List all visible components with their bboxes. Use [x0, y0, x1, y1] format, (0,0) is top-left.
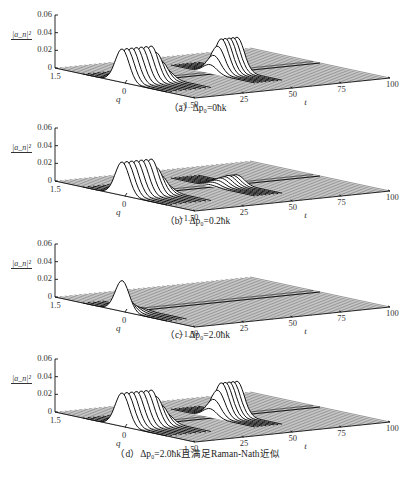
t-tick-label: 50 [289, 203, 298, 212]
t-tick-label: 100 [386, 80, 399, 89]
z-axis-label: |a_n|² [11, 31, 32, 40]
z-tick-label: 0.02 [25, 158, 52, 167]
z-tick-label: 0.06 [25, 239, 52, 248]
z-tick-label: 0.02 [25, 389, 52, 398]
t-tick-label: 75 [337, 429, 346, 438]
waterfall-plot [0, 344, 395, 459]
t-tick-label: 50 [289, 90, 298, 99]
plot-panel-d: 0.060.040.020|a_n|²1.50−1.5q0255075100t [0, 344, 395, 459]
plot-panel-a: 0.060.040.020|a_n|²1.50−1.5q0255075100t [0, 0, 395, 115]
panel-caption-d: （d）Δp₀=2.0ħk且满足Raman-Nath近似 [0, 446, 395, 460]
z-tick-label: 0.06 [25, 354, 52, 363]
plot-panel-b: 0.060.040.020|a_n|²1.50−1.5q0255075100t [0, 113, 395, 228]
q-tick-label: 0 [122, 316, 126, 325]
panel-caption-c: （c）Δp₀=2.0ħk [0, 327, 395, 341]
z-tick-label: 0.06 [25, 10, 52, 19]
panel-caption-b: （b）Δp₀=0.2ħk [0, 213, 395, 227]
z-axis-label: |a_n|² [11, 375, 32, 384]
waterfall-plot [0, 113, 395, 228]
waterfall-plot [0, 0, 395, 115]
t-tick-label: 100 [386, 193, 399, 202]
q-tick-label: 0 [122, 87, 126, 96]
z-tick-label: 0.02 [25, 274, 52, 283]
panel-caption-a: （a）Δp₀=0ħk [0, 100, 395, 114]
q-tick-label: 1.5 [50, 72, 61, 81]
z-tick-label: 0 [25, 407, 52, 416]
q-tick-label: 1.5 [50, 185, 61, 194]
t-tick-label: 100 [386, 309, 399, 318]
z-axis-label: |a_n|² [11, 260, 32, 269]
q-tick-label: 1.5 [50, 416, 61, 425]
z-tick-label: 0 [25, 292, 52, 301]
z-tick-label: 0 [25, 176, 52, 185]
t-tick-label: 75 [337, 314, 346, 323]
t-tick-label: 50 [289, 434, 298, 443]
t-tick-label: 75 [337, 198, 346, 207]
q-tick-label: 1.5 [50, 301, 61, 310]
q-tick-label: 0 [122, 431, 126, 440]
q-tick-label: 0 [122, 200, 126, 209]
z-tick-label: 0.06 [25, 123, 52, 132]
t-tick-label: 100 [386, 424, 399, 433]
z-tick-label: 0.02 [25, 45, 52, 54]
z-tick-label: 0 [25, 63, 52, 72]
t-tick-label: 75 [337, 85, 346, 94]
z-axis-label: |a_n|² [11, 144, 32, 153]
